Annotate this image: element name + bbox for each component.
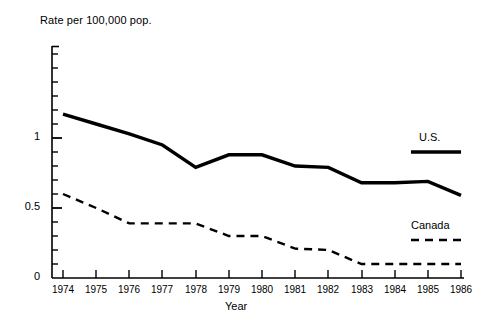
x-tick-label-1986: 1986	[444, 284, 478, 295]
x-tick-label-1979: 1979	[212, 284, 246, 295]
chart-figure: Rate per 100,000 pop. 1 0.5 0	[0, 0, 486, 321]
x-tick-label-1983: 1983	[345, 284, 379, 295]
x-tick-label-1984: 1984	[378, 284, 412, 295]
chart-plot-area	[0, 0, 486, 321]
x-ticks	[63, 270, 461, 278]
x-tick-label-1977: 1977	[145, 284, 179, 295]
x-tick-label-1985: 1985	[411, 284, 445, 295]
y-major-ticks	[52, 138, 62, 208]
series-line-canada	[63, 194, 461, 264]
x-axis-title: Year	[225, 300, 247, 312]
x-tick-label-1982: 1982	[311, 284, 345, 295]
y-minor-ticks	[52, 54, 58, 264]
x-tick-label-1974: 1974	[46, 284, 80, 295]
x-tick-label-1981: 1981	[278, 284, 312, 295]
x-tick-label-1975: 1975	[79, 284, 113, 295]
x-tick-label-1976: 1976	[112, 284, 146, 295]
legend-label-us: U.S.	[419, 131, 440, 143]
x-tick-label-1980: 1980	[245, 284, 279, 295]
legend-label-canada: Canada	[411, 219, 450, 231]
series-line-us	[63, 114, 461, 195]
x-tick-label-1978: 1978	[179, 284, 213, 295]
